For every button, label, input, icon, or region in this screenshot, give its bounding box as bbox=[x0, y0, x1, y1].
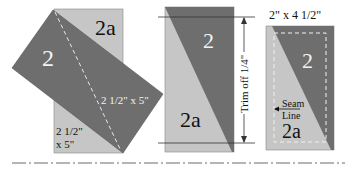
panel1-light-size-line2: x 5" bbox=[56, 138, 74, 150]
quilt-diagram: 2 2a 2 1/2" x 5" 2 1/2" x 5" Trim off 1/… bbox=[0, 0, 348, 169]
panel3-size-label: 2" x 4 1/2" bbox=[269, 8, 321, 22]
panel2-light-label: 2a bbox=[180, 107, 201, 132]
panel-3-finished-unit: 2" x 4 1/2" 2 Seam Line 2a bbox=[266, 8, 334, 150]
arrow-up-icon bbox=[241, 17, 247, 24]
seam-label-line1: Seam bbox=[282, 98, 304, 109]
panel1-light-label: 2a bbox=[95, 15, 116, 40]
panel1-light-size-line1: 2 1/2" bbox=[56, 125, 83, 137]
panel-1-overlapped-rectangles: 2 2a 2 1/2" x 5" 2 1/2" x 5" bbox=[12, 9, 163, 153]
arrow-down-icon bbox=[241, 136, 247, 143]
panel1-dark-label: 2 bbox=[42, 45, 54, 71]
panel2-dark-label: 2 bbox=[203, 28, 214, 53]
panel3-light-label: 2a bbox=[282, 120, 301, 142]
panel-2-trim: Trim off 1/4" 2 2a bbox=[158, 7, 255, 152]
panel3-dark-label: 2 bbox=[302, 48, 313, 73]
panel1-dark-size: 2 1/2" x 5" bbox=[101, 94, 149, 106]
trim-label: Trim off 1/4" bbox=[238, 55, 250, 113]
